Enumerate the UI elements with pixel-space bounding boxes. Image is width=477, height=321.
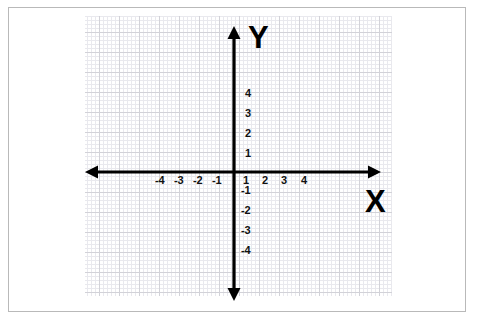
- y-tick-label-2: 2: [245, 128, 251, 139]
- y-tick-label-neg1: -1: [241, 185, 250, 196]
- y-tick-label-1: 1: [245, 148, 251, 159]
- y-tick-label-neg4: -4: [241, 245, 250, 256]
- coordinate-plane-figure: Y X -4 -3 -2 -1 1 2 3 4 4 3 2 1 -1 -2 -3…: [0, 0, 477, 321]
- x-tick-label-neg3: -3: [174, 175, 183, 186]
- axes-layer: [0, 0, 477, 321]
- x-tick-label-neg2: -2: [193, 175, 202, 186]
- y-tick-label-4: 4: [245, 88, 251, 99]
- y-axis-bottom-arrowhead: [228, 288, 241, 301]
- y-tick-label-neg3: -3: [241, 225, 250, 236]
- x-tick-label-neg1: -1: [212, 175, 221, 186]
- x-tick-label-neg4: -4: [155, 175, 164, 186]
- y-tick-label-3: 3: [245, 108, 251, 119]
- y-axis-top-arrowhead: [228, 26, 241, 39]
- x-axis-right-arrowhead: [368, 166, 381, 179]
- x-tick-label-4: 4: [301, 175, 307, 186]
- x-axis-left-arrowhead: [85, 166, 98, 179]
- x-axis-label: X: [365, 186, 386, 217]
- y-tick-label-neg2: -2: [241, 205, 250, 216]
- y-axis-label: Y: [248, 22, 269, 53]
- x-tick-label-3: 3: [281, 175, 287, 186]
- x-tick-label-2: 2: [262, 175, 268, 186]
